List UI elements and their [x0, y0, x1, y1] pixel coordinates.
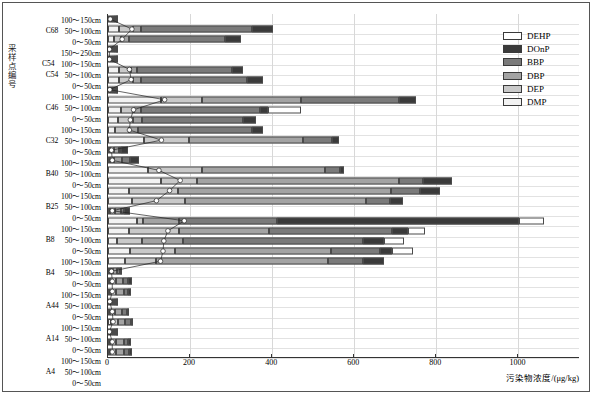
- bar-row[interactable]: [108, 287, 579, 297]
- bar-row[interactable]: [108, 115, 579, 125]
- bar-segment-dep[interactable]: [129, 187, 178, 194]
- bar-segment-donp[interactable]: [247, 76, 263, 83]
- bar-row[interactable]: [108, 14, 579, 24]
- bar-segment-dbp[interactable]: [179, 228, 269, 235]
- bar-segment-bbp[interactable]: [141, 106, 260, 113]
- legend-item[interactable]: DOnP: [503, 44, 581, 54]
- bar-row[interactable]: [108, 347, 579, 357]
- bar-segment-bbp[interactable]: [331, 248, 379, 255]
- bar-segment-dmp[interactable]: [108, 258, 125, 265]
- bar-segment-dmp[interactable]: [108, 228, 129, 235]
- bar-segment-dehp[interactable]: [408, 228, 424, 235]
- bar-segment-donp[interactable]: [130, 157, 139, 164]
- bar-segment-dep[interactable]: [129, 228, 178, 235]
- bar-segment-donp[interactable]: [131, 318, 133, 325]
- bar-segment-donp[interactable]: [232, 66, 243, 73]
- stacked-bar[interactable]: [108, 26, 273, 33]
- bar-segment-donp[interactable]: [252, 127, 263, 134]
- bar-segment-donp[interactable]: [116, 56, 118, 63]
- bar-segment-donp[interactable]: [128, 278, 131, 285]
- stacked-bar[interactable]: [108, 56, 111, 63]
- bar-segment-donp[interactable]: [116, 46, 118, 53]
- stacked-bar[interactable]: [108, 127, 263, 134]
- bar-segment-dbp[interactable]: [121, 36, 129, 43]
- bar-segment-bbp[interactable]: [129, 36, 225, 43]
- stacked-bar[interactable]: [108, 36, 241, 43]
- bar-segment-dbp[interactable]: [142, 238, 183, 245]
- bar-row[interactable]: [108, 165, 579, 175]
- stacked-bar[interactable]: [108, 116, 256, 123]
- stacked-bar[interactable]: [108, 298, 114, 305]
- bar-segment-dep[interactable]: [117, 238, 142, 245]
- bar-row[interactable]: [108, 196, 579, 206]
- bar-segment-dehp[interactable]: [384, 238, 405, 245]
- bar-row[interactable]: [108, 216, 579, 226]
- bar-segment-bbp[interactable]: [328, 258, 363, 265]
- bar-segment-dmp[interactable]: [108, 187, 129, 194]
- stacked-bar[interactable]: [108, 76, 263, 83]
- bar-segment-dep[interactable]: [115, 127, 129, 134]
- bar-segment-donp[interactable]: [120, 268, 122, 275]
- bar-row[interactable]: [108, 307, 579, 317]
- stacked-bar[interactable]: [108, 157, 139, 164]
- bar-segment-bbp[interactable]: [399, 177, 424, 184]
- stacked-bar[interactable]: [108, 197, 403, 204]
- bar-row[interactable]: [108, 125, 579, 135]
- bar-segment-dbp[interactable]: [143, 217, 178, 224]
- bar-segment-dep[interactable]: [119, 66, 131, 73]
- bar-segment-donp[interactable]: [252, 26, 273, 33]
- bar-segment-dep[interactable]: [125, 258, 155, 265]
- bar-segment-dmp[interactable]: [108, 66, 119, 73]
- bar-segment-donp[interactable]: [392, 228, 408, 235]
- bar-segment-dmp[interactable]: [108, 217, 137, 224]
- bar-segment-bbp[interactable]: [179, 217, 278, 224]
- bar-segment-donp[interactable]: [380, 248, 392, 255]
- bar-segment-donp[interactable]: [423, 177, 452, 184]
- bar-segment-donp[interactable]: [129, 349, 131, 356]
- bar-segment-donp[interactable]: [243, 116, 256, 123]
- stacked-bar[interactable]: [108, 308, 129, 315]
- bar-segment-dep[interactable]: [121, 106, 134, 113]
- bar-segment-donp[interactable]: [116, 86, 118, 93]
- bar-segment-dmp[interactable]: [108, 96, 161, 103]
- stacked-bar[interactable]: [108, 258, 384, 265]
- bar-segment-dep[interactable]: [144, 137, 189, 144]
- bar-segment-dbp[interactable]: [116, 288, 123, 295]
- bar-segment-dbp[interactable]: [202, 167, 325, 174]
- bar-row[interactable]: [108, 155, 579, 165]
- bar-segment-donp[interactable]: [277, 217, 519, 224]
- stacked-bar[interactable]: [108, 288, 131, 295]
- bar-segment-dmp[interactable]: [108, 167, 148, 174]
- bar-segment-bbp[interactable]: [183, 238, 364, 245]
- bar-segment-donp[interactable]: [127, 308, 129, 315]
- bar-segment-dbp[interactable]: [133, 76, 140, 83]
- bar-row[interactable]: [108, 236, 579, 246]
- bar-row[interactable]: [108, 297, 579, 307]
- legend-item[interactable]: DBP: [503, 71, 581, 81]
- stacked-bar[interactable]: [108, 46, 111, 53]
- bar-segment-dep[interactable]: [119, 76, 133, 83]
- bar-segment-bbp[interactable]: [269, 228, 392, 235]
- bar-row[interactable]: [108, 256, 579, 266]
- bar-row[interactable]: [108, 226, 579, 236]
- bar-row[interactable]: [108, 145, 579, 155]
- stacked-bar[interactable]: [108, 66, 243, 73]
- stacked-bar[interactable]: [108, 328, 112, 335]
- bar-segment-donp[interactable]: [420, 187, 441, 194]
- bar-segment-bbp[interactable]: [141, 26, 252, 33]
- legend-item[interactable]: DMP: [503, 97, 581, 107]
- bar-segment-dehp[interactable]: [392, 248, 413, 255]
- bar-segment-donp[interactable]: [121, 147, 127, 154]
- bar-segment-bbp[interactable]: [122, 157, 130, 164]
- bar-row[interactable]: [108, 337, 579, 347]
- bar-segment-dbp[interactable]: [185, 197, 366, 204]
- bar-segment-dep[interactable]: [119, 26, 133, 33]
- bar-segment-dmp[interactable]: [108, 127, 115, 134]
- bar-segment-dbp[interactable]: [133, 116, 141, 123]
- bar-row[interactable]: [108, 186, 579, 196]
- bar-segment-donp[interactable]: [390, 197, 402, 204]
- bar-row[interactable]: [108, 135, 579, 145]
- bar-row[interactable]: [108, 317, 579, 327]
- stacked-bar[interactable]: [108, 167, 344, 174]
- bar-segment-dbp[interactable]: [129, 127, 137, 134]
